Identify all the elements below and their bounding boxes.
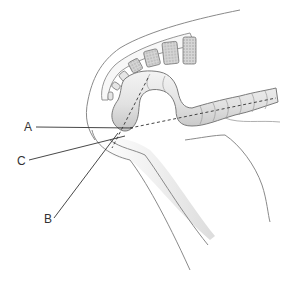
pelvic-wall <box>95 138 215 240</box>
rectum-sigmoid <box>112 71 278 131</box>
label-c: C <box>17 155 26 167</box>
label-b: B <box>44 213 52 225</box>
pelvis-diagram <box>0 0 293 287</box>
body-contour-right <box>225 135 270 222</box>
label-a: A <box>24 121 32 133</box>
body-contour-upper <box>185 135 225 140</box>
mesentery <box>225 118 280 122</box>
